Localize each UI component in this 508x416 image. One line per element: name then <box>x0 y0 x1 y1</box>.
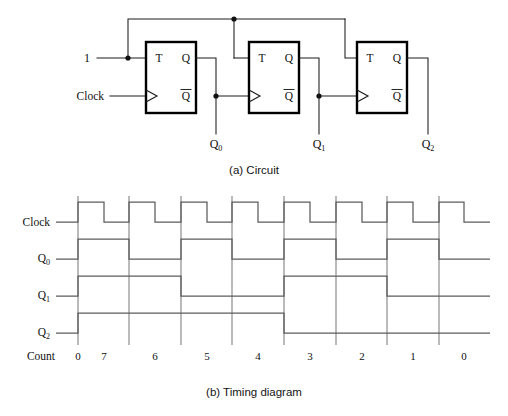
net-q1: Q1 <box>299 58 357 153</box>
timing-row-labels: Clock Q0 Q1 Q2 <box>23 216 51 341</box>
timing-diagram: Clock Q0 Q1 Q2 Count 0 7 6 5 4 3 2 1 0 (… <box>23 196 490 398</box>
flipflop-0: T Q Q <box>146 42 196 113</box>
count-value: 5 <box>204 350 210 362</box>
waveform-clock <box>56 202 490 222</box>
count-value: 2 <box>359 350 365 362</box>
logic-one-input: 1 <box>84 51 146 65</box>
flipflop-2-qbar-pin: Q <box>393 90 402 102</box>
output-label-q2: Q2 <box>422 137 435 153</box>
waveform-q2 <box>56 313 490 333</box>
timing-label-q0: Q0 <box>38 252 50 267</box>
timing-label-q1: Q1 <box>38 289 50 304</box>
junction-dot-logic-one <box>125 55 130 60</box>
flipflop-0-qbar-pin: Q <box>182 90 191 102</box>
junction-dot-q1 <box>316 93 321 98</box>
timing-label-clock: Clock <box>23 216 51 228</box>
count-value: 6 <box>152 350 158 362</box>
flipflop-1-t-pin: T <box>258 52 265 64</box>
junction-dot-q0 <box>213 93 218 98</box>
count-row: Count 0 7 6 5 4 3 2 1 0 <box>27 350 467 362</box>
circuit-diagram: 1 Clock T Q Q Q0 T Q Q <box>77 16 435 176</box>
count-label: Count <box>27 350 56 362</box>
clock-input-label: Clock <box>77 90 105 102</box>
flipflop-1-q-pin: Q <box>285 52 294 64</box>
waveform-q0 <box>56 239 490 259</box>
timing-label-q2: Q2 <box>38 326 50 341</box>
net-q2: Q2 <box>407 58 434 153</box>
count-value: 0 <box>461 350 467 362</box>
output-label-q0: Q0 <box>210 137 223 153</box>
flipflop-0-q-pin: Q <box>182 52 191 64</box>
flipflop-0-t-pin: T <box>155 52 162 64</box>
count-value: 7 <box>101 350 107 362</box>
clock-input: Clock <box>77 90 146 102</box>
flipflop-1-qbar-pin: Q <box>285 90 294 102</box>
flipflop-2: T Q Q <box>357 42 407 113</box>
output-label-q1: Q1 <box>313 137 326 153</box>
count-value: 1 <box>410 350 416 362</box>
count-value: 4 <box>255 350 261 362</box>
waveform-q1 <box>56 276 490 296</box>
count-value: 0 <box>75 350 81 362</box>
net-q0: Q0 <box>196 58 249 153</box>
caption-timing: (b) Timing diagram <box>206 386 302 398</box>
counter-figure: 1 Clock T Q Q Q0 T Q Q <box>0 0 508 416</box>
junction-dot-top-bus <box>231 16 236 21</box>
flipflop-1: T Q Q <box>249 42 299 113</box>
logic-one-label: 1 <box>84 51 90 65</box>
count-value: 3 <box>307 350 313 362</box>
caption-circuit: (a) Circuit <box>229 164 280 176</box>
flipflop-2-t-pin: T <box>366 52 373 64</box>
flipflop-2-q-pin: Q <box>393 52 402 64</box>
